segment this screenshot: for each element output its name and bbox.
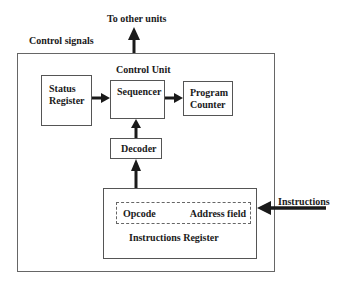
ir-to-decoder-arrow xyxy=(131,159,141,188)
sequencer-to-pc-arrow xyxy=(165,93,183,103)
instructions-input-arrow xyxy=(257,201,326,215)
arrows-layer xyxy=(0,0,341,286)
status-to-sequencer-arrow xyxy=(92,93,110,103)
to-other-units-arrow xyxy=(128,27,140,53)
decoder-to-sequencer-arrow xyxy=(131,119,141,138)
